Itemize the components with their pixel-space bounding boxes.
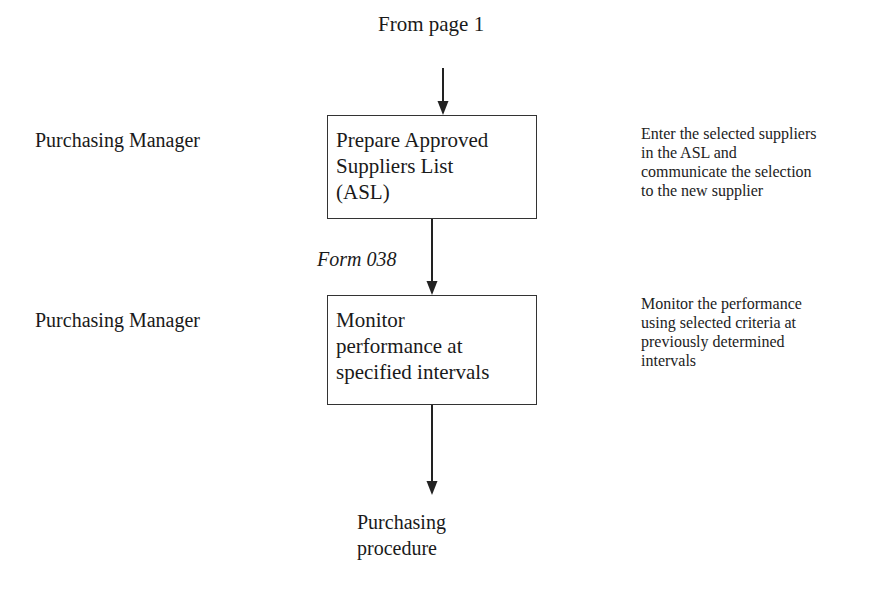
- box-line: Monitor: [336, 307, 528, 333]
- arrow-step1-to-step2: [427, 218, 438, 295]
- note-line: to the new supplier: [641, 181, 817, 200]
- note-line: Enter the selected suppliers: [641, 124, 817, 143]
- box-line: Suppliers List: [336, 153, 528, 179]
- note-line: in the ASL and: [641, 143, 817, 162]
- step1-description: Enter the selected suppliers in the ASL …: [641, 124, 817, 200]
- box-line: specified intervals: [336, 359, 528, 385]
- box-line: Prepare Approved: [336, 127, 528, 153]
- process-box-prepare-asl: Prepare Approved Suppliers List (ASL): [327, 115, 537, 219]
- end-label: Purchasing procedure: [357, 509, 446, 561]
- end-line: Purchasing: [357, 509, 446, 535]
- note-line: Monitor the performance: [641, 294, 802, 313]
- note-line: previously determined: [641, 332, 802, 351]
- arrow-start-to-step1: [438, 68, 449, 115]
- connector-label-form: Form 038: [317, 246, 396, 272]
- note-line: using selected criteria at: [641, 313, 802, 332]
- note-line: intervals: [641, 351, 802, 370]
- process-box-monitor-performance: Monitor performance at specified interva…: [327, 295, 537, 405]
- note-line: communicate the selection: [641, 162, 817, 181]
- role-label-step1: Purchasing Manager: [35, 127, 200, 153]
- end-line: procedure: [357, 535, 446, 561]
- step2-description: Monitor the performance using selected c…: [641, 294, 802, 370]
- arrow-step2-to-end: [427, 404, 438, 495]
- box-line: performance at: [336, 333, 528, 359]
- role-label-step2: Purchasing Manager: [35, 307, 200, 333]
- box-line: (ASL): [336, 179, 528, 205]
